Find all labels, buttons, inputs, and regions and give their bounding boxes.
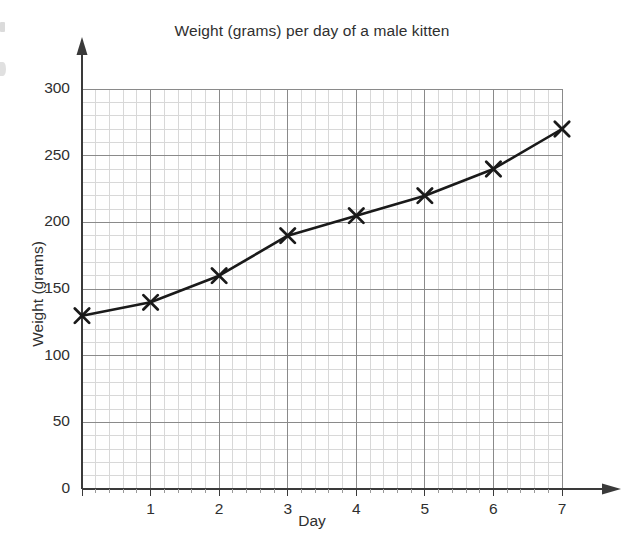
x-axis-title: Day <box>0 512 624 530</box>
y-axis-arrowhead <box>77 37 88 55</box>
y-axis-title: Weight (grams) <box>29 194 47 394</box>
y-axis-tick-label: 0 <box>0 479 70 497</box>
y-axis-tick-label: 250 <box>0 146 70 164</box>
major-gridlines <box>82 89 562 489</box>
y-axis-tick-label: 300 <box>0 79 70 97</box>
x-axis-arrowhead <box>602 484 621 495</box>
plot-area <box>0 0 624 544</box>
chart-container: Weight (grams) per day of a male kitten … <box>0 0 624 544</box>
y-axis-tick-label: 50 <box>0 412 70 430</box>
axis-ticks <box>82 489 562 496</box>
axes <box>77 37 622 495</box>
